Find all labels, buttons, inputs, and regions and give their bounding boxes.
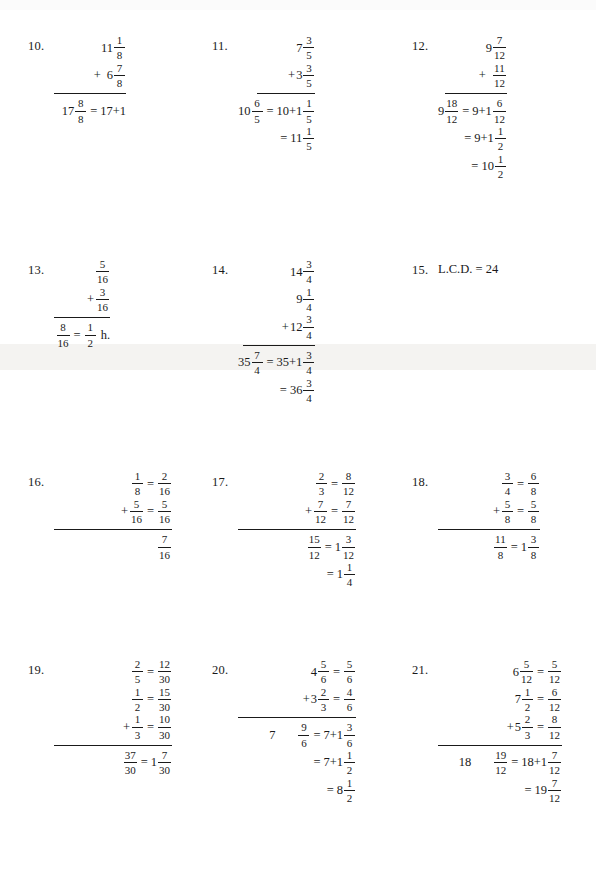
tail-whole-number: 1 xyxy=(335,541,341,554)
sum-rule xyxy=(238,717,356,718)
fraction-tail: 34 xyxy=(303,377,314,405)
fraction-numerator: 8 xyxy=(77,97,85,109)
fraction-bar xyxy=(342,483,355,484)
operator-plus: + xyxy=(479,69,486,82)
problem-number: 11. xyxy=(212,34,238,53)
fraction-numerator: 7 xyxy=(551,777,559,789)
tail-whole-number: 1 xyxy=(151,756,157,769)
tail-whole-number: 7+1 xyxy=(323,729,343,742)
fraction-primary: 34 xyxy=(303,258,314,286)
equals-sign: = xyxy=(327,784,334,797)
fraction-numerator: 2 xyxy=(318,470,326,482)
fraction-denominator: 6 xyxy=(346,673,354,685)
fraction-bar xyxy=(158,727,171,728)
equals-sign: = xyxy=(331,478,338,491)
whole-number: 6 xyxy=(513,666,519,679)
problem-number: 21. xyxy=(412,658,438,677)
fraction-denominator: 5 xyxy=(253,113,261,125)
fraction-numerator: 15 xyxy=(158,686,171,698)
fraction-numerator: 7 xyxy=(161,533,169,545)
fraction-bar xyxy=(344,699,355,700)
fraction-denominator: 6 xyxy=(300,737,308,749)
fraction-denominator: 4 xyxy=(253,364,261,376)
fraction-numerator: 3 xyxy=(346,721,354,733)
fraction-bar xyxy=(303,390,314,391)
fraction-converted: 712 xyxy=(342,498,355,526)
fraction-numerator: 1 xyxy=(346,561,354,573)
equals-sign: = xyxy=(147,721,154,734)
fraction-denominator: 8 xyxy=(497,549,505,561)
problem-15: 15.L.C.D. = 24 xyxy=(412,258,498,277)
fraction-denominator: 12 xyxy=(342,549,355,561)
fraction-bar xyxy=(252,362,263,363)
fraction-numerator: 12 xyxy=(158,658,171,670)
problem-work: 6512=512712=612+523=812181912=18+1712=19… xyxy=(438,658,562,804)
fraction-denominator: 30 xyxy=(124,764,137,776)
sum-rule xyxy=(257,93,315,94)
fraction-primary: 74 xyxy=(252,349,263,377)
fraction-bar xyxy=(303,75,314,76)
addend-row: 18=216 xyxy=(131,470,172,498)
fraction-tail: 14 xyxy=(344,561,355,589)
fraction-primary: 18 xyxy=(132,470,143,498)
equals-sign: = xyxy=(471,160,478,173)
fraction-bar xyxy=(548,699,561,700)
fraction-primary: 34 xyxy=(502,470,513,498)
fraction-bar xyxy=(298,735,309,736)
fraction-bar xyxy=(528,511,539,512)
fraction-denominator: 5 xyxy=(305,113,313,125)
equals-sign: = xyxy=(524,784,531,797)
fraction-denominator: 2 xyxy=(524,701,532,713)
fraction-bar xyxy=(316,483,327,484)
fraction-tail: 12 xyxy=(85,321,96,349)
problem-number: 20. xyxy=(212,658,238,677)
whole-number: 6 xyxy=(107,69,113,82)
addend-row: +316 xyxy=(87,286,110,314)
problem-work: 1434914+12343574=35+134=3634 xyxy=(238,258,315,404)
fraction-primary: 1912 xyxy=(494,749,507,777)
equals-sign: = xyxy=(267,105,274,118)
fraction-numerator: 3 xyxy=(345,533,353,545)
addend-row: 735 xyxy=(296,34,315,62)
fraction-denominator: 16 xyxy=(158,513,171,525)
fraction-denominator: 2 xyxy=(497,168,505,180)
addend-row: +712=712 xyxy=(305,498,356,526)
result-row: 716 xyxy=(157,533,172,561)
fraction-denominator: 12 xyxy=(494,764,507,776)
fraction-bar xyxy=(252,111,263,112)
addend-row: 25=1230 xyxy=(131,658,172,686)
fraction-numerator: 6 xyxy=(530,470,538,482)
fraction-bar xyxy=(344,671,355,672)
fraction-bar xyxy=(502,483,513,484)
addend-row: 6512=512 xyxy=(513,658,562,686)
addend-row: 9712 xyxy=(486,34,507,62)
fraction-bar xyxy=(96,299,109,300)
fraction-denominator: 16 xyxy=(96,273,109,285)
fraction-denominator: 2 xyxy=(497,140,505,152)
addend-row: 23=812 xyxy=(315,470,356,498)
fraction-denominator: 4 xyxy=(346,576,354,588)
fraction-bar xyxy=(130,511,143,512)
fraction-numerator: 7 xyxy=(345,498,353,510)
fraction-numerator: 6 xyxy=(496,97,504,109)
tail-whole-number: 10 xyxy=(481,160,494,173)
fraction-bar xyxy=(303,271,314,272)
fraction-primary: 13 xyxy=(132,713,143,741)
fraction-bar xyxy=(158,547,171,548)
fraction-bar xyxy=(303,327,314,328)
fraction-numerator: 11 xyxy=(494,533,507,545)
operator-plus: + xyxy=(303,693,310,706)
problem-work: 18=216+516=516716 xyxy=(54,470,172,561)
fraction-converted: 516 xyxy=(158,498,171,526)
fraction-denominator: 8 xyxy=(530,549,538,561)
fraction-denominator: 12 xyxy=(548,729,561,741)
fraction-bar xyxy=(344,790,355,791)
fraction-denominator: 3 xyxy=(318,485,326,497)
addend-row: +13=1030 xyxy=(123,713,172,741)
fraction-numerator: 7 xyxy=(161,749,169,761)
problem-16: 16.18=216+516=516716 xyxy=(28,470,172,561)
equals-sign: = xyxy=(74,329,81,342)
whole-number: 9 xyxy=(438,105,444,118)
fraction-numerator: 1 xyxy=(134,686,142,698)
fraction-tail: 15 xyxy=(303,97,314,125)
